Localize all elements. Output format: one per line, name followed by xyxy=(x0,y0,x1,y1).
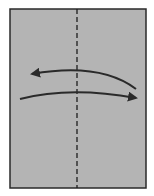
origami-diagram xyxy=(0,0,154,196)
paper-sheet xyxy=(10,9,146,188)
